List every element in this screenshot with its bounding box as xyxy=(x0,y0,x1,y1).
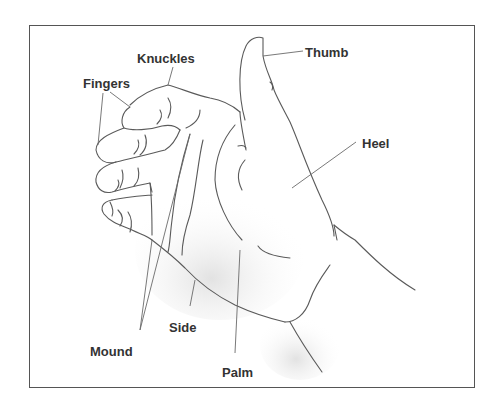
hand-top-outline xyxy=(130,85,240,112)
label-side: Side xyxy=(169,321,196,334)
thumb-leader xyxy=(263,51,303,56)
finger-middle xyxy=(96,128,180,163)
hand-illustration xyxy=(0,0,503,402)
finger-index xyxy=(122,107,180,130)
label-palm: Palm xyxy=(222,366,253,379)
label-thumb: Thumb xyxy=(305,46,348,59)
label-heel: Heel xyxy=(362,137,389,150)
fingers-leader-1 xyxy=(110,92,130,107)
heel-leader xyxy=(292,142,356,188)
label-mound: Mound xyxy=(90,345,133,358)
finger-ring xyxy=(96,162,152,193)
hand-shading xyxy=(135,180,340,380)
label-fingers: Fingers xyxy=(83,77,130,90)
wrist-outline-right xyxy=(334,225,415,290)
label-knuckles: Knuckles xyxy=(137,52,195,65)
knuckles-leader xyxy=(168,67,173,85)
fingers-leader-2 xyxy=(98,93,103,145)
